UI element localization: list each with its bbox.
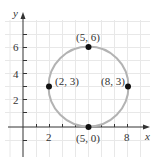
point-label-5-0: (5, 0)	[76, 132, 100, 145]
x-tick-2: 2	[46, 131, 52, 143]
y-tick-2: 2	[13, 94, 19, 106]
point-2-3	[46, 84, 52, 90]
x-axis-label: x	[144, 130, 150, 142]
point-5-0	[86, 124, 92, 130]
y-tick-4: 4	[13, 68, 19, 80]
point-8-3	[125, 84, 131, 90]
y-axis	[21, 12, 28, 157]
y-axis-label: y	[12, 7, 18, 19]
x-tick-8: 8	[124, 131, 130, 143]
point-label-2-3: (2, 3)	[55, 75, 79, 88]
chart: y x 2 8 2 4 6 (5, 6) (2, 3) (8, 3) (5, 0…	[0, 0, 153, 157]
point-label-5-6: (5, 6)	[76, 31, 100, 44]
y-tick-6: 6	[13, 41, 19, 53]
point-label-8-3: (8, 3)	[101, 75, 125, 88]
x-axis-arrow-icon	[143, 125, 150, 130]
point-5-6	[86, 44, 92, 50]
y-axis-arrow-icon	[21, 12, 26, 19]
